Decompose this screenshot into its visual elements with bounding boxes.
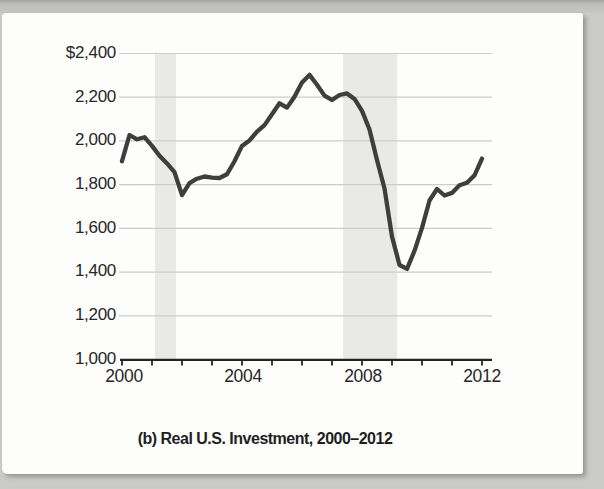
investment-line-chart: [0, 0, 604, 489]
x-axis-tick-label: 2000: [92, 366, 156, 386]
y-axis-tick-label: 1,800: [30, 174, 116, 194]
x-axis-tick-label: 2008: [331, 366, 395, 386]
x-axis-tick-label: 2012: [450, 366, 514, 386]
y-axis-tick-label: 1,400: [30, 261, 116, 281]
y-axis-tick-label: 1,200: [30, 305, 116, 325]
scanned-figure-page: $2,400 2,200 2,000 1,800 1,600 1,400 1,2…: [0, 0, 604, 489]
x-axis-tick-label: 2004: [211, 366, 275, 386]
x-axis: [120, 360, 492, 366]
recession-bands: [155, 53, 397, 359]
chart-caption: (b) Real U.S. Investment, 2000–2012: [0, 429, 530, 449]
recession-band: [155, 53, 176, 359]
y-axis-tick-label: 2,200: [30, 87, 116, 107]
y-axis-tick-label: $2,400: [30, 43, 116, 63]
y-axis-tick-label: 2,000: [30, 130, 116, 150]
y-axis-tick-label: 1,600: [30, 218, 116, 238]
